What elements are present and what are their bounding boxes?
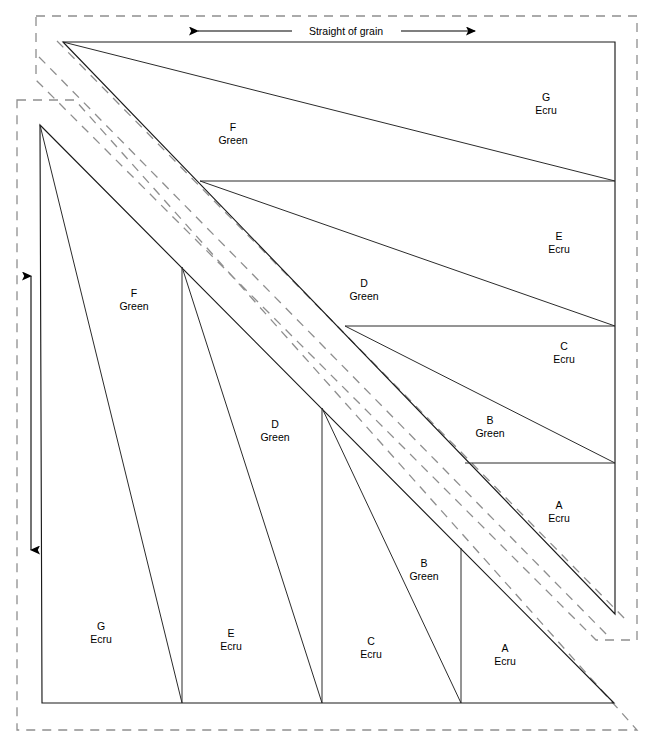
lower-label-G-letter: G xyxy=(97,620,105,632)
upper-unit-outline xyxy=(63,42,615,614)
lower-label-D-letter: D xyxy=(271,418,279,430)
upper-label-B-letter: B xyxy=(486,414,493,426)
lower-label-C-letter: C xyxy=(367,635,375,647)
upper-label-F-letter: F xyxy=(230,121,236,133)
lower-label-E-fabric: Ecru xyxy=(220,640,242,652)
lower-label-A-fabric: Ecru xyxy=(494,655,516,667)
upper-unit-labels: G Ecru F Green E Ecru D Green C Ecru B G… xyxy=(218,91,575,524)
lower-seam-b-c xyxy=(322,408,461,703)
lower-unit-outline xyxy=(40,125,614,703)
lower-label-G-fabric: Ecru xyxy=(90,633,112,645)
upper-label-B-fabric: Green xyxy=(475,427,504,439)
lower-label-A-letter: A xyxy=(501,642,508,654)
lower-label-C-fabric: Ecru xyxy=(360,648,382,660)
lower-label-B-fabric: Green xyxy=(409,570,438,582)
lower-label-F-fabric: Green xyxy=(119,300,148,312)
lower-seam-f-g xyxy=(40,125,182,703)
upper-seam-b-c xyxy=(345,326,615,463)
upper-seam-f-g xyxy=(63,42,615,181)
dashed-seam-guide-upper xyxy=(39,57,610,638)
upper-label-A-fabric: Ecru xyxy=(548,512,570,524)
upper-label-D-fabric: Green xyxy=(349,290,378,302)
upper-label-E-fabric: Ecru xyxy=(548,243,570,255)
upper-label-A-letter: A xyxy=(555,499,562,511)
upper-label-C-fabric: Ecru xyxy=(553,353,575,365)
upper-label-G-letter: G xyxy=(542,91,550,103)
lower-label-D-fabric: Green xyxy=(260,431,289,443)
upper-label-E-letter: E xyxy=(555,230,562,242)
lower-unit-labels: F Green D Green B Green G Ecru E Ecru C … xyxy=(90,287,516,667)
upper-label-D-letter: D xyxy=(360,277,368,289)
lower-label-E-letter: E xyxy=(227,627,234,639)
upper-label-G-fabric: Ecru xyxy=(535,104,557,116)
grain-label: Straight of grain xyxy=(309,25,383,37)
upper-label-C-letter: C xyxy=(560,340,568,352)
lower-label-F-letter: F xyxy=(131,287,137,299)
lower-seam-d-e xyxy=(182,267,322,703)
lower-label-B-letter: B xyxy=(420,557,427,569)
upper-label-F-fabric: Green xyxy=(218,134,247,146)
pattern-diagram-svg: Straight of grain G Ecru F Green E Ecru … xyxy=(0,0,653,743)
pattern-diagram-sheet: Straight of grain G Ecru F Green E Ecru … xyxy=(0,0,653,743)
